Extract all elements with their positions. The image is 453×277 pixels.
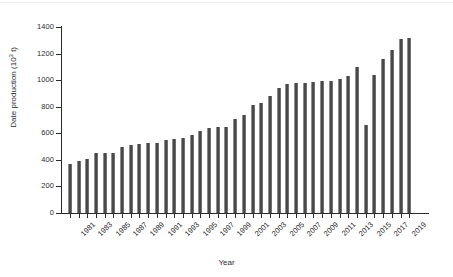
x-axis-tick [348, 214, 349, 218]
x-axis-tick [401, 214, 402, 218]
x-axis-tick [87, 214, 88, 218]
x-axis-tick-label: 1987 [131, 220, 149, 238]
x-axis-tick [340, 214, 341, 218]
x-axis-tick [366, 214, 367, 218]
x-axis-tick [279, 214, 280, 218]
x-axis-tick [79, 214, 80, 218]
x-axis-tick-label: 2005 [288, 220, 306, 238]
x-axis-tick-label: 1991 [166, 220, 184, 238]
x-axis-tick-label: 1999 [235, 220, 253, 238]
x-axis-tick [235, 214, 236, 218]
x-axis-tick-label: 2009 [322, 220, 340, 238]
x-axis-tick-label: 1983 [96, 220, 114, 238]
x-axis-tick [105, 214, 106, 218]
x-axis-tick-label: 1989 [148, 220, 166, 238]
x-axis-tick [409, 214, 410, 218]
x-axis-tick [174, 214, 175, 218]
x-axis-tick [313, 214, 314, 218]
x-axis-tick-label: 2001 [253, 220, 271, 238]
x-axis-tick-label: 2019 [409, 220, 427, 238]
x-axis-tick-label: 1997 [218, 220, 236, 238]
x-axis-tick [261, 214, 262, 218]
x-axis-tick [226, 214, 227, 218]
x-axis-tick [148, 214, 149, 218]
x-axis-tick-label: 2007 [305, 220, 323, 238]
x-axis-tick [305, 214, 306, 218]
x-axis-tick-label: 2015 [375, 220, 393, 238]
x-axis-tick-label: 2017 [392, 220, 410, 238]
x-axis-tick [192, 214, 193, 218]
x-axis-tick [113, 214, 114, 218]
x-axis-tick-labels: 1981198319851987198919911993199519971999… [0, 0, 453, 277]
x-axis-tick [287, 214, 288, 218]
x-axis-tick [357, 214, 358, 218]
x-axis-tick [322, 214, 323, 218]
x-axis-tick [218, 214, 219, 218]
x-axis-tick [200, 214, 201, 218]
x-axis-tick-label: 1995 [201, 220, 219, 238]
x-axis-tick [253, 214, 254, 218]
date-production-bar-chart: Date production (103 t) Year 02004006008… [0, 0, 453, 277]
x-axis-tick [331, 214, 332, 218]
x-axis-tick [139, 214, 140, 218]
x-axis-tick [70, 214, 71, 218]
x-axis-tick [383, 214, 384, 218]
x-axis-tick [270, 214, 271, 218]
x-axis-tick [157, 214, 158, 218]
x-axis-tick-label: 1981 [79, 220, 97, 238]
x-axis-tick [122, 214, 123, 218]
x-axis-tick-label: 2003 [270, 220, 288, 238]
x-axis-tick-label: 2011 [340, 220, 358, 238]
x-axis-tick-label: 2013 [357, 220, 375, 238]
x-axis-tick [392, 214, 393, 218]
x-axis-tick-label: 1993 [183, 220, 201, 238]
x-axis-tick-label: 1985 [114, 220, 132, 238]
x-axis-tick [96, 214, 97, 218]
x-axis-tick [244, 214, 245, 218]
x-axis-tick [166, 214, 167, 218]
x-axis-tick [296, 214, 297, 218]
x-axis-tick [131, 214, 132, 218]
x-axis-tick [209, 214, 210, 218]
x-axis-tick [374, 214, 375, 218]
x-axis-tick [183, 214, 184, 218]
